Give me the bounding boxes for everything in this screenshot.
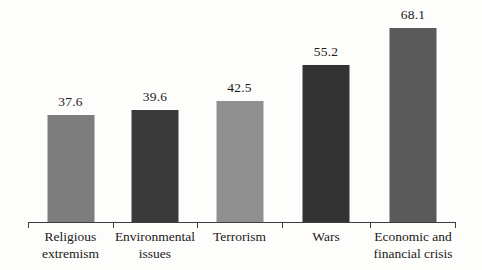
bar-value-label: 39.6 (143, 90, 167, 104)
bar[interactable] (216, 101, 263, 223)
category-label-line1: Wars (312, 229, 339, 244)
category-label: Economic and financial crisis (366, 228, 460, 262)
bar-slot: 68.1 (370, 0, 456, 223)
bar-value-label: 42.5 (227, 81, 251, 95)
bar-slot: 39.6 (113, 0, 197, 223)
plot-area: 37.6 39.6 42.5 55.2 68.1 (0, 0, 482, 223)
bar-chart: 37.6 39.6 42.5 55.2 68.1 Religious extre… (0, 0, 482, 270)
bar-slot: 42.5 (197, 0, 282, 223)
bar-value-label: 55.2 (314, 45, 338, 59)
category-label-line1: Environmental (115, 229, 195, 244)
category-label-line1: Economic and (374, 229, 452, 244)
category-label-line2: issues (109, 245, 201, 262)
bar-value-label: 68.1 (401, 8, 425, 22)
category-label-line1: Terrorism (213, 229, 266, 244)
x-axis-line (28, 222, 456, 223)
category-label-line2: financial crisis (366, 245, 460, 262)
bar[interactable] (47, 115, 94, 223)
category-label: Terrorism (197, 228, 282, 245)
bar[interactable] (132, 110, 179, 223)
bar-slot: 55.2 (282, 0, 370, 223)
category-label-line1: Religious (45, 229, 97, 244)
bar[interactable] (390, 28, 437, 223)
category-label: Wars (282, 228, 370, 245)
category-axis: Religious extremism Environmental issues… (0, 228, 482, 270)
category-label: Religious extremism (28, 228, 113, 262)
category-label: Environmental issues (109, 228, 201, 262)
bar-slot: 37.6 (28, 0, 113, 223)
bar-value-label: 37.6 (58, 95, 82, 109)
category-label-line2: extremism (28, 245, 113, 262)
bar[interactable] (303, 65, 350, 223)
